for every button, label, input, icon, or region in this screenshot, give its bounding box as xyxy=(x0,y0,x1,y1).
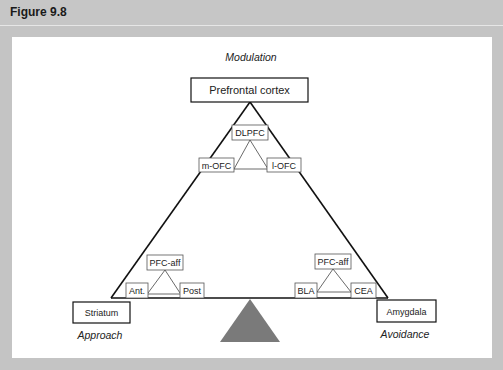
modulation-label: Modulation xyxy=(225,51,277,63)
svg-text:PFC-aff: PFC-aff xyxy=(318,257,349,267)
post-node: Post xyxy=(180,283,204,298)
svg-text:m-OFC: m-OFC xyxy=(202,161,232,171)
svg-text:PFC-aff: PFC-aff xyxy=(150,258,181,268)
dlpfc-node: DLPFC xyxy=(232,125,268,140)
ant-node: Ant. xyxy=(126,283,148,298)
fulcrum-icon xyxy=(220,299,280,342)
cea-node: CEA xyxy=(351,283,376,298)
right-subtriangle: PFC-aff BLA CEA xyxy=(295,254,376,298)
triangle-balance-diagram: Modulation Prefrontal cortex DLPFC m-OFC… xyxy=(0,0,503,370)
svg-text:BLA: BLA xyxy=(297,286,314,296)
svg-text:CEA: CEA xyxy=(354,286,373,296)
svg-text:Striatum: Striatum xyxy=(85,308,119,318)
top-subtriangle: DLPFC m-OFC l-OFC xyxy=(199,125,301,172)
svg-text:DLPFC: DLPFC xyxy=(235,128,265,138)
bla-node: BLA xyxy=(295,283,317,298)
approach-label: Approach xyxy=(77,329,123,341)
prefrontal-cortex-node: Prefrontal cortex xyxy=(191,78,308,102)
svg-text:Post: Post xyxy=(183,286,202,296)
m-ofc-node: m-OFC xyxy=(199,158,234,172)
svg-text:Amygdala: Amygdala xyxy=(386,307,426,317)
svg-text:Ant.: Ant. xyxy=(129,286,145,296)
svg-text:l-OFC: l-OFC xyxy=(272,161,296,171)
l-ofc-node: l-OFC xyxy=(267,158,301,172)
left-pfc-aff-node: PFC-aff xyxy=(147,255,183,270)
svg-text:Prefrontal cortex: Prefrontal cortex xyxy=(209,84,290,96)
right-pfc-aff-node: PFC-aff xyxy=(315,254,351,269)
striatum-node: Striatum xyxy=(73,302,130,323)
avoidance-label: Avoidance xyxy=(380,328,430,340)
amygdala-node: Amygdala xyxy=(377,300,436,322)
